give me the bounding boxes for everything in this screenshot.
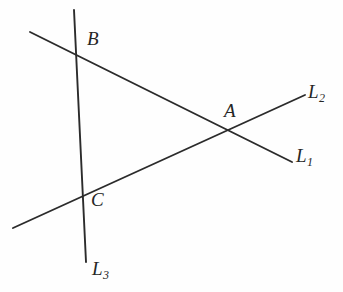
point-label-C: C <box>91 190 104 209</box>
point-label-B: B <box>87 29 99 48</box>
diagram-canvas <box>0 0 343 292</box>
line-label-L1: L1 <box>296 146 313 168</box>
line-label-L2-subscript: 2 <box>319 91 326 105</box>
line-label-L3: L3 <box>92 259 109 281</box>
line-L3 <box>74 10 86 262</box>
line-label-L2-base: L <box>308 81 319 102</box>
line-L2 <box>13 95 305 228</box>
line-L1 <box>30 32 292 162</box>
line-label-L1-base: L <box>296 145 307 166</box>
point-label-A: A <box>224 101 236 120</box>
line-label-L2: L2 <box>308 82 325 104</box>
geometry-diagram: B A C L2 L1 L3 <box>0 0 343 292</box>
line-label-L3-base: L <box>92 258 103 279</box>
line-label-L1-subscript: 1 <box>307 155 314 169</box>
line-label-L3-subscript: 3 <box>103 268 110 282</box>
